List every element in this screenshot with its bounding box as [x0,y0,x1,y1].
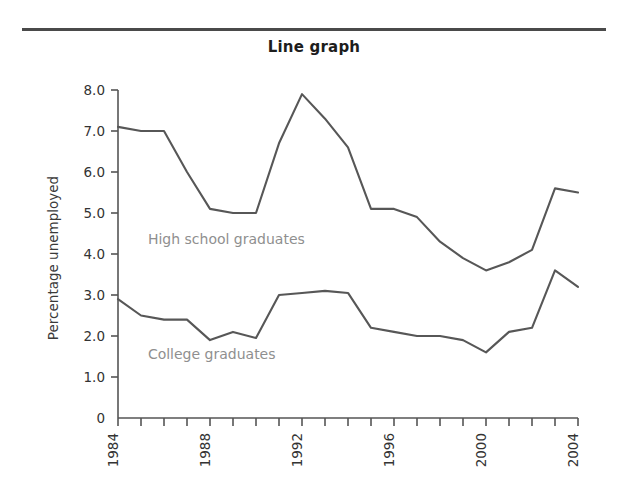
chart-canvas: 01.02.03.04.05.06.07.08.0 19841988199219… [0,0,628,493]
y-axis-tick-label: 0 [96,410,105,426]
chart-axes [118,90,578,418]
y-axis-tick-label: 8.0 [84,82,105,98]
series-line [118,270,578,352]
x-axis-tick-label: 1992 [289,433,305,467]
y-axis-tick-label: 5.0 [84,205,105,221]
x-axis-ticks: 198419881992199620002004 [105,418,581,467]
series-annotations: High school graduatesCollege graduates [148,231,305,363]
chart-page: Line graph Percentage unemployed 01.02.0… [0,0,628,493]
y-axis-tick-label: 2.0 [84,328,105,344]
x-axis-tick-label: 2000 [473,433,489,467]
y-axis-tick-label: 3.0 [84,287,105,303]
chart-series [118,94,578,352]
y-axis-tick-label: 1.0 [84,369,105,385]
x-axis-tick-label: 1996 [381,433,397,467]
x-axis-tick-label: 1984 [105,433,121,467]
line-chart: 01.02.03.04.05.06.07.08.0 19841988199219… [0,0,628,493]
series-label: College graduates [148,346,276,362]
y-axis-tick-label: 6.0 [84,164,105,180]
y-axis-tick-label: 4.0 [84,246,105,262]
y-axis-tick-label: 7.0 [84,123,105,139]
series-label: High school graduates [148,231,305,247]
y-axis-ticks: 01.02.03.04.05.06.07.08.0 [84,82,118,426]
x-axis-tick-label: 2004 [565,433,581,467]
x-axis-tick-label: 1988 [197,433,213,467]
